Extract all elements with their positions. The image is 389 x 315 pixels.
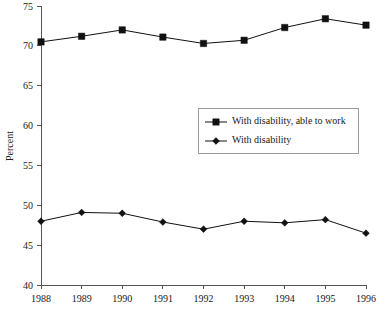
y-tick-label: 40 — [23, 280, 33, 291]
x-axis: 198819891990199119921993199419951996 — [31, 285, 376, 304]
y-tick-label: 65 — [23, 80, 33, 91]
data-point-diamond-marker — [281, 219, 288, 226]
data-point-diamond-marker — [200, 226, 207, 233]
chart-canvas: 4045505560657075 19881989199019911992199… — [0, 0, 389, 315]
data-point-diamond-marker — [78, 209, 85, 216]
data-point-diamond-marker — [322, 216, 329, 223]
data-point-square-marker — [241, 37, 247, 43]
data-point-diamond-marker — [241, 218, 248, 225]
data-point-square-marker — [160, 34, 166, 40]
y-tick-label: 50 — [23, 200, 33, 211]
x-tick-label: 1996 — [356, 293, 376, 304]
data-point-square-marker — [78, 33, 84, 39]
data-series — [38, 209, 370, 237]
data-point-square-marker — [363, 22, 369, 28]
x-tick-label: 1992 — [194, 293, 214, 304]
y-tick-label: 70 — [23, 40, 33, 51]
x-tick-label: 1990 — [112, 293, 132, 304]
data-point-square-marker — [119, 27, 125, 33]
x-tick-label: 1988 — [31, 293, 51, 304]
data-series — [38, 16, 369, 47]
data-point-square-marker — [38, 39, 44, 45]
y-tick-label: 75 — [23, 1, 33, 12]
data-point-diamond-marker — [119, 210, 126, 217]
y-tick-label: 60 — [23, 120, 33, 131]
legend-item-label: With disability, able to work — [232, 115, 346, 126]
series-line — [41, 19, 366, 44]
y-tick-label: 55 — [23, 160, 33, 171]
data-point-square-marker — [282, 24, 288, 30]
data-point-diamond-marker — [159, 219, 166, 226]
data-point-diamond-marker — [38, 218, 45, 225]
chart-legend: With disability, able to workWith disabi… — [198, 108, 358, 153]
legend-square-marker-icon — [213, 119, 219, 125]
x-tick-label: 1991 — [153, 293, 173, 304]
x-tick-label: 1994 — [275, 293, 295, 304]
data-point-square-marker — [322, 16, 328, 22]
x-tick-label: 1989 — [72, 293, 92, 304]
data-point-square-marker — [200, 40, 206, 46]
data-point-diamond-marker — [363, 230, 370, 237]
y-tick-label: 45 — [23, 240, 33, 251]
legend-item-label: With disability — [232, 134, 291, 145]
x-tick-label: 1995 — [315, 293, 335, 304]
y-axis-title: Percent — [4, 131, 15, 161]
line-chart: 4045505560657075 19881989199019911992199… — [0, 0, 389, 315]
x-tick-label: 1993 — [234, 293, 254, 304]
